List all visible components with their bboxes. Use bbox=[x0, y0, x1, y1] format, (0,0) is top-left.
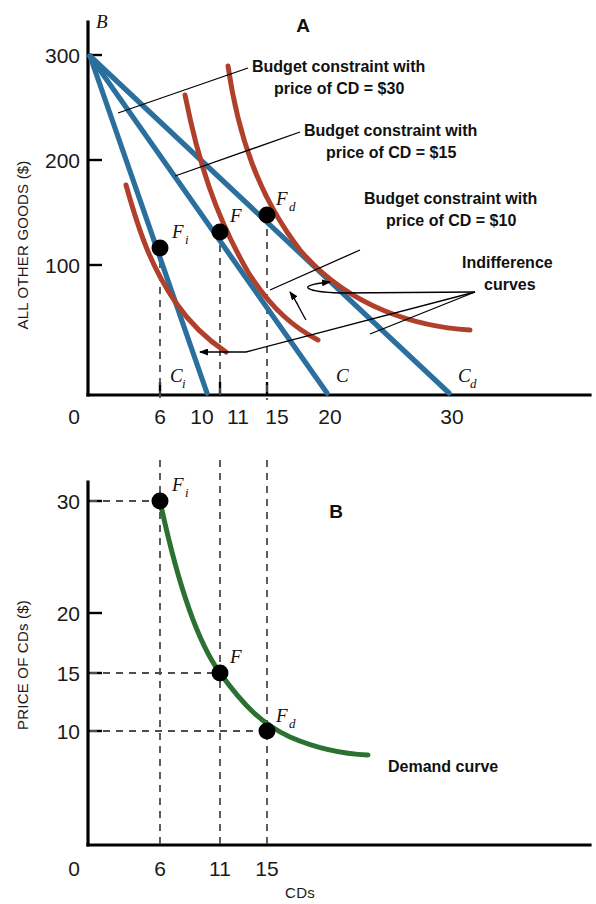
panel-b: B PRICE OF CDs ($) 30 20 15 10 F i bbox=[14, 460, 590, 901]
point-label-fi-a: F i bbox=[171, 221, 189, 247]
x-intercept-label-c-base: C bbox=[336, 365, 349, 386]
point-label-fd-b-base: F bbox=[275, 705, 288, 726]
panel-a: A ALL OTHER GOODS ($) 100 200 300 0 6 10… bbox=[14, 11, 590, 428]
point-label-fi-a-base: F bbox=[171, 221, 184, 242]
point-label-fd-b-sub: d bbox=[289, 716, 296, 731]
point-label-fd-a: F d bbox=[275, 188, 296, 214]
point-label-fd-a-base: F bbox=[275, 188, 288, 209]
panel-a-ylabel-100: 100 bbox=[45, 254, 80, 277]
panel-b-ylabel-20: 20 bbox=[57, 602, 80, 625]
leader-indiff-1 bbox=[340, 292, 475, 293]
panel-b-xlabel-6: 6 bbox=[154, 857, 166, 880]
annotation-budget-30: Budget constraint with price of CD = $30 bbox=[252, 58, 425, 97]
panel-a-xlabel-15: 15 bbox=[265, 405, 288, 428]
point-label-fi-b: F i bbox=[171, 474, 189, 500]
panel-b-xlabel-0: 0 bbox=[68, 857, 80, 880]
x-intercept-label-cd: C d bbox=[458, 365, 477, 391]
point-label-f-a-base: F bbox=[229, 205, 242, 226]
annotation-budget-30-line1: Budget constraint with bbox=[252, 58, 425, 75]
point-f-b bbox=[212, 665, 229, 682]
panel-a-xlabel-20: 20 bbox=[318, 405, 341, 428]
budget-line-price-15 bbox=[90, 56, 327, 393]
annotation-budget-10: Budget constraint with price of CD = $10 bbox=[364, 190, 537, 229]
point-fd-b bbox=[259, 723, 276, 740]
annotation-indifference-line1: Indifference bbox=[462, 254, 553, 271]
annotation-budget-15-line2: price of CD = $15 bbox=[326, 144, 456, 161]
panel-a-ylabel-300: 300 bbox=[45, 44, 80, 67]
panel-a-xlabel-0: 0 bbox=[68, 405, 80, 428]
point-fd-a bbox=[259, 207, 276, 224]
demand-curve-label: Demand curve bbox=[388, 758, 498, 775]
panel-b-letter: B bbox=[329, 501, 343, 522]
x-intercept-label-ci-sub: i bbox=[182, 376, 186, 391]
point-fi-b bbox=[152, 493, 169, 510]
panel-a-xlabel-30: 30 bbox=[440, 405, 463, 428]
annotation-budget-30-line2: price of CD = $30 bbox=[274, 80, 404, 97]
panel-b-y-axis-title: PRICE OF CDs ($) bbox=[14, 600, 31, 730]
annotation-budget-15: Budget constraint with price of CD = $15 bbox=[304, 122, 477, 161]
leader-indiff-arrow-mid bbox=[290, 292, 306, 320]
point-label-fi-b-base: F bbox=[171, 474, 184, 495]
panel-b-xlabel-11: 11 bbox=[209, 857, 231, 880]
point-label-fi-a-sub: i bbox=[185, 232, 189, 247]
x-intercept-label-c: C bbox=[336, 365, 349, 386]
point-label-fi-b-sub: i bbox=[185, 485, 189, 500]
annotation-indifference-line2: curves bbox=[484, 276, 536, 293]
panel-a-letter: A bbox=[296, 15, 310, 36]
point-fi-a bbox=[152, 240, 169, 257]
panel-b-x-axis-title: CDs bbox=[285, 884, 315, 901]
economics-figure: A ALL OTHER GOODS ($) 100 200 300 0 6 10… bbox=[0, 0, 596, 904]
panel-a-xlabel-10: 10 bbox=[190, 405, 213, 428]
panel-b-ylabel-10: 10 bbox=[57, 720, 80, 743]
annotation-budget-15-line1: Budget constraint with bbox=[304, 122, 477, 139]
leader-budget-30 bbox=[118, 68, 248, 113]
point-label-f-a: F bbox=[229, 205, 242, 226]
panel-a-ylabel-200: 200 bbox=[45, 149, 80, 172]
point-label-f-b-base: F bbox=[229, 646, 242, 667]
panel-a-xlabel-11: 11 bbox=[227, 405, 249, 428]
point-f-a bbox=[212, 224, 229, 241]
panel-a-y-axis-title: ALL OTHER GOODS ($) bbox=[14, 160, 31, 329]
point-label-fd-b: F d bbox=[275, 705, 296, 731]
panel-b-xlabel-15: 15 bbox=[255, 857, 278, 880]
panel-b-ylabel-15: 15 bbox=[57, 662, 80, 685]
budget-intercept-label-b: B bbox=[96, 11, 108, 32]
point-label-f-b: F bbox=[229, 646, 242, 667]
annotation-budget-10-line1: Budget constraint with bbox=[364, 190, 537, 207]
panel-b-ylabel-30: 30 bbox=[57, 490, 80, 513]
x-intercept-label-ci: C i bbox=[170, 365, 186, 391]
annotation-budget-10-line2: price of CD = $10 bbox=[386, 212, 516, 229]
point-label-fd-a-sub: d bbox=[289, 199, 296, 214]
x-intercept-label-cd-sub: d bbox=[470, 376, 477, 391]
annotation-indifference-curves: Indifference curves bbox=[462, 254, 553, 293]
panel-a-xlabel-6: 6 bbox=[154, 405, 166, 428]
demand-curve bbox=[160, 501, 368, 755]
